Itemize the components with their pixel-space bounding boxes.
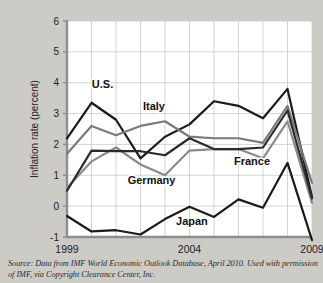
y-axis-title: Inflation rate (percent): [29, 80, 40, 178]
series-label-japan: Japan: [176, 215, 208, 227]
inflation-rate-line-chart: -10123456199920042009Inflation rate (per…: [0, 0, 323, 283]
y-tick-label: -1: [50, 232, 59, 243]
source-note: Source: Data from IMF World Economic Out…: [8, 258, 318, 280]
y-tick-label: 6: [53, 16, 59, 27]
series-label-italy: Italy: [143, 100, 166, 112]
y-tick-label: 0: [53, 201, 59, 212]
x-tick-label: 1999: [55, 243, 79, 255]
series-label-france: France: [234, 155, 270, 167]
x-tick-label: 2004: [178, 243, 202, 255]
y-tick-label: 1: [53, 170, 59, 181]
x-tick-label: 2009: [300, 243, 323, 255]
series-label-germany: Germany: [128, 174, 177, 186]
inflation-rate-figure: -10123456199920042009Inflation rate (per…: [0, 0, 323, 283]
y-tick-label: 3: [53, 108, 59, 119]
y-tick-label: 5: [53, 46, 59, 57]
series-label-u-s: U.S.: [92, 78, 113, 90]
y-axis-ticks: -10123456: [50, 16, 67, 243]
y-tick-label: 2: [53, 139, 59, 150]
x-axis-ticks: 199920042009: [55, 243, 323, 255]
y-tick-label: 4: [53, 77, 59, 88]
